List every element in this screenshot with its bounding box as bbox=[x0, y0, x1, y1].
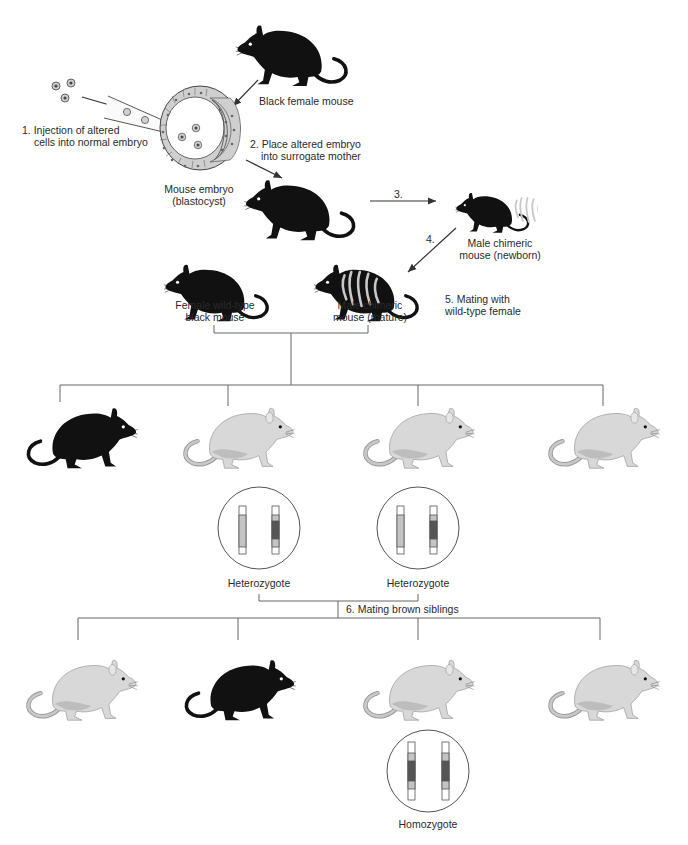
label-female-wt-line2: black mouse bbox=[165, 311, 265, 323]
label-step2-line1: 2. Place altered embryo bbox=[250, 138, 361, 150]
label-step5-line1: 5. Mating with bbox=[445, 293, 510, 305]
label-step4: 4. bbox=[426, 233, 435, 245]
f2-mouse-light-3 bbox=[540, 650, 666, 722]
label-female-wt-line1: Female wild-type bbox=[165, 299, 265, 311]
f2-mouse-light-1 bbox=[18, 650, 144, 722]
label-step1-line2: cells into normal embryo bbox=[34, 136, 148, 148]
label-heterozygote-2: Heterozygote bbox=[378, 577, 458, 589]
f2-mouse-black bbox=[176, 650, 302, 722]
label-step5-line2: wild-type female bbox=[445, 305, 521, 317]
label-newborn-line1: Male chimeric bbox=[460, 237, 540, 249]
label-chimeric-mature-line2: mouse (mature) bbox=[320, 311, 420, 323]
label-black-female-mouse: Black female mouse bbox=[259, 95, 354, 107]
label-newborn-line2: mouse (newborn) bbox=[455, 249, 545, 261]
label-homozygote: Homozygote bbox=[388, 818, 468, 830]
label-step6: 6. Mating brown siblings bbox=[346, 603, 459, 615]
label-embryo-line2: (blastocyst) bbox=[162, 195, 236, 207]
label-step3: 3. bbox=[394, 188, 403, 200]
label-step1-line1: 1. Injection of altered bbox=[22, 124, 119, 136]
label-heterozygote-1: Heterozygote bbox=[219, 577, 299, 589]
label-embryo-line1: Mouse embryo bbox=[162, 183, 236, 195]
f2-mouse-light-2 bbox=[355, 650, 481, 722]
label-step2-line2: into surrogate mother bbox=[261, 150, 361, 162]
label-chimeric-mature-line1: Male chimeric bbox=[320, 299, 420, 311]
